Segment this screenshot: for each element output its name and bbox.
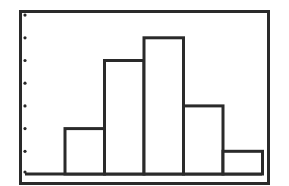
y-tick-dot (23, 36, 26, 39)
histogram-bar (65, 129, 105, 174)
y-tick-dot (23, 170, 26, 173)
histogram-bar (184, 106, 224, 174)
y-tick-dot (23, 150, 26, 153)
histogram-bar (223, 151, 263, 174)
y-tick-dot (23, 82, 26, 85)
y-tick-dot (23, 14, 26, 17)
histogram-bar (105, 61, 145, 175)
y-tick-dot (23, 127, 26, 130)
y-tick-dot (23, 104, 26, 107)
histogram-plot (0, 0, 289, 186)
y-tick-dot (23, 59, 26, 62)
histogram-bar (144, 38, 184, 174)
